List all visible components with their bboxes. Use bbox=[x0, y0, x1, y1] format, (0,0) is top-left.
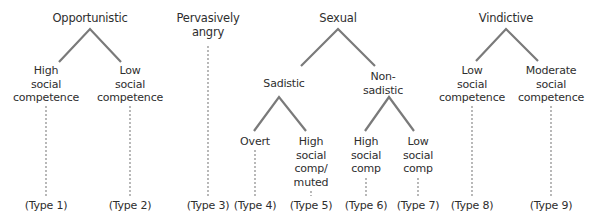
branch-non-sadistic bbox=[365, 97, 414, 131]
type-2-label: (Type 2) bbox=[109, 199, 152, 213]
subtype-high-social-comp-muted: High social comp/ muted bbox=[294, 135, 329, 189]
branch-opportunistic bbox=[59, 29, 121, 62]
subtype-sadistic: Sadistic bbox=[263, 77, 304, 91]
branch-sadistic bbox=[254, 97, 306, 131]
type-7-label: (Type 7) bbox=[397, 199, 440, 213]
type-1-label: (Type 1) bbox=[25, 199, 68, 213]
type-9-label: (Type 9) bbox=[530, 199, 573, 213]
type-5-label: (Type 5) bbox=[290, 199, 333, 213]
subtype-high-social-comp: High social comp bbox=[351, 135, 381, 176]
type-8-label: (Type 8) bbox=[451, 199, 494, 213]
subtype-opportunistic-low: Low social competence bbox=[97, 64, 163, 105]
diagram-lines bbox=[0, 0, 598, 223]
category-vindictive: Vindictive bbox=[479, 12, 534, 26]
branch-sexual bbox=[301, 29, 375, 66]
subtype-non-sadistic: Non- sadistic bbox=[363, 70, 403, 97]
category-opportunistic: Opportunistic bbox=[52, 12, 127, 26]
category-sexual: Sexual bbox=[319, 12, 356, 26]
subtype-vindictive-low: Low social competence bbox=[439, 64, 505, 105]
subtype-vindictive-moderate: Moderate social competence bbox=[518, 64, 584, 105]
subtype-opportunistic-high: High social competence bbox=[13, 64, 79, 105]
branch-vindictive bbox=[476, 29, 538, 61]
subtype-overt: Overt bbox=[240, 135, 270, 149]
type-4-label: (Type 4) bbox=[234, 199, 277, 213]
type-6-label: (Type 6) bbox=[345, 199, 388, 213]
subtype-low-social-comp: Low social comp bbox=[403, 135, 433, 176]
category-pervasively-angry: Pervasively angry bbox=[176, 12, 239, 39]
type-3-label: (Type 3) bbox=[187, 199, 230, 213]
